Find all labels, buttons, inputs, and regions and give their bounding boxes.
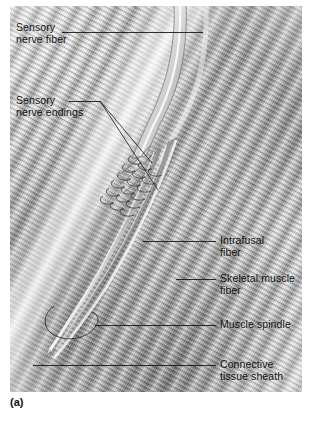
label-intrafusal-fiber: Intrafusal fiber [220, 234, 264, 259]
figure-caption: (a) [10, 396, 23, 408]
label-sensory-nerve-fiber: Sensory nerve fiber [16, 21, 67, 46]
plate-vignette [10, 6, 302, 392]
figure-root: Sensory nerve fiber Sensory nerve ending… [0, 0, 317, 426]
label-skeletal-muscle-fiber: Skeletal muscle fiber [220, 272, 295, 297]
label-muscle-spindle: Muscle spindle [220, 318, 291, 330]
label-sensory-nerve-endings: Sensory nerve endings [16, 94, 83, 119]
label-connective-tissue-sheath: Connective tissue sheath [220, 358, 283, 383]
muscle-spindle-illustration [10, 6, 302, 392]
